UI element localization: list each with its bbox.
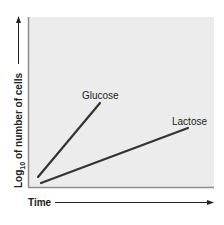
y-axis-log: Log — [13, 170, 24, 188]
y-axis-arrowhead-icon — [16, 16, 21, 23]
y-axis-subscript: 10 — [19, 162, 26, 170]
x-axis-arrowhead-icon — [207, 200, 214, 205]
y-axis-label: Log10 of number of cells — [13, 73, 26, 188]
lactose-label: Lactose — [172, 116, 207, 127]
growth-curve-chart: Glucose Lactose Log10 of number of cells… — [0, 0, 224, 225]
plot-area — [28, 17, 214, 187]
glucose-label: Glucose — [82, 90, 119, 101]
y-axis-rest: of number of cells — [13, 73, 24, 162]
x-axis-label: Time — [28, 197, 52, 208]
